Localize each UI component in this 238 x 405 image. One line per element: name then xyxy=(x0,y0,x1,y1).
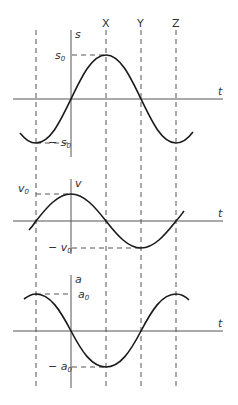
panel-acceleration: a t a0 − a0 xyxy=(13,273,223,388)
label-y: Y xyxy=(136,17,144,30)
panel-velocity: v t v0 − v0 xyxy=(13,177,223,255)
a0-label: a0 xyxy=(78,288,90,302)
label-z: Z xyxy=(172,17,180,30)
neg-a0-label: − a0 xyxy=(48,360,72,374)
t-label-a: t xyxy=(218,317,223,330)
s-axis-label: s xyxy=(75,28,81,41)
v-axis-label: v xyxy=(75,177,82,190)
v0-label: v0 xyxy=(18,182,30,196)
t-label-s: t xyxy=(218,85,223,98)
vertical-guides xyxy=(36,30,176,388)
shm-graphs-diagram: X Y Z s t s0 − s0 v t v0 − v0 a t a0 − a… xyxy=(0,0,238,405)
neg-v0-label: − v0 xyxy=(48,241,72,255)
a-axis-label: a xyxy=(75,273,82,286)
neg-s0-label: − s0 xyxy=(48,136,71,150)
s0-label: s0 xyxy=(55,49,66,63)
panel-displacement: s t s0 − s0 xyxy=(13,28,223,157)
t-label-v: t xyxy=(218,207,223,220)
label-x: X xyxy=(102,17,110,30)
